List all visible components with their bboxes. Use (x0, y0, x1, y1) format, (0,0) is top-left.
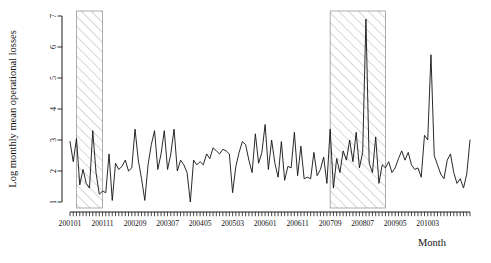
x-tick-label: 200111 (91, 219, 113, 228)
y-axis-title: Log monthly mean operational losses (7, 30, 18, 187)
x-tick-label: 200611 (286, 219, 309, 228)
x-tick-label: 200405 (189, 219, 212, 228)
y-axis: 1234567 (49, 14, 62, 204)
x-tick-label: 200209 (124, 219, 147, 228)
y-tick-label: 7 (49, 14, 58, 18)
series-layer (70, 19, 470, 202)
x-tick-label: 200601 (254, 219, 277, 228)
line-chart-svg: 1234567 20010120011120020920030720040520… (0, 0, 491, 263)
y-tick-label: 2 (49, 169, 58, 173)
x-tick-label: 200503 (221, 219, 244, 228)
x-tick-label: 201003 (416, 219, 439, 228)
data-series-line (70, 19, 470, 202)
y-tick-label: 3 (49, 138, 58, 142)
y-tick-label: 6 (49, 45, 58, 49)
chart-figure: 1234567 20010120011120020920030720040520… (0, 0, 491, 263)
x-axis-title: Month (418, 237, 447, 248)
y-tick-label: 5 (49, 76, 58, 80)
x-tick-label: 200905 (384, 219, 407, 228)
x-tick-label: 200101 (59, 219, 82, 228)
recession-band-2 (330, 11, 385, 208)
recession-band-1 (77, 11, 103, 208)
y-tick-label: 4 (49, 107, 58, 111)
x-tick-label: 200709 (319, 219, 342, 228)
x-tick-label: 200807 (351, 219, 374, 228)
x-axis: 2001012001112002092003072004052005032006… (59, 212, 470, 228)
y-tick-label: 1 (49, 200, 58, 204)
x-tick-label: 200307 (156, 219, 179, 228)
